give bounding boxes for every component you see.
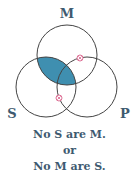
label-m: M [60, 6, 74, 21]
circle-p [57, 57, 117, 117]
label-s: S [7, 106, 16, 121]
caption-line-1: No S are M. [0, 127, 139, 142]
label-p: P [120, 106, 130, 121]
marker-x-icon [77, 55, 83, 61]
caption-line-3: No M are S. [0, 159, 139, 174]
caption-line-2: or [0, 143, 139, 158]
venn-diagram: M S P [0, 0, 139, 125]
marker-x-icon [56, 95, 62, 101]
